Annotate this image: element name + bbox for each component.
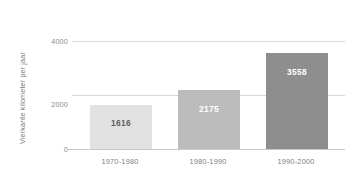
plot-area: 1616 2175 3558 bbox=[72, 41, 345, 149]
bar-chart: Vierkante kilometer per jaar 4000 2000 0… bbox=[0, 0, 358, 180]
x-axis-baseline bbox=[67, 149, 345, 150]
y-axis-tick-label-4000: 4000 bbox=[38, 37, 68, 46]
y-axis-tick-label-2000: 2000 bbox=[38, 100, 68, 109]
bar-1990-2000: 3558 bbox=[266, 53, 328, 149]
y-axis-tick-label-0: 0 bbox=[38, 145, 68, 154]
y-axis-title: Vierkante kilometer per jaar bbox=[16, 0, 30, 144]
x-axis-category-label-0: 1970-1980 bbox=[75, 157, 165, 167]
bar-value-label-1980-1990: 2175 bbox=[178, 104, 240, 114]
gridline-4000 bbox=[72, 41, 345, 42]
bar-value-label-1990-2000: 3558 bbox=[266, 67, 328, 77]
bar-1980-1990: 2175 bbox=[178, 90, 240, 149]
x-axis-category-label-2: 1990-2000 bbox=[251, 157, 341, 167]
bar-value-label-1970-1980: 1616 bbox=[90, 118, 152, 128]
x-axis-category-label-1: 1980-1990 bbox=[163, 157, 253, 167]
bar-1970-1980: 1616 bbox=[90, 105, 152, 149]
